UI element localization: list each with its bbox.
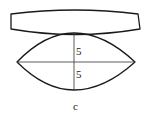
- upper-dimension-label: 5: [76, 46, 82, 57]
- concave-lens-shape: [11, 10, 140, 35]
- figure-caption: c: [73, 101, 78, 112]
- biconvex-lens-shape: [17, 33, 135, 90]
- lower-dimension-label: 5: [76, 69, 82, 80]
